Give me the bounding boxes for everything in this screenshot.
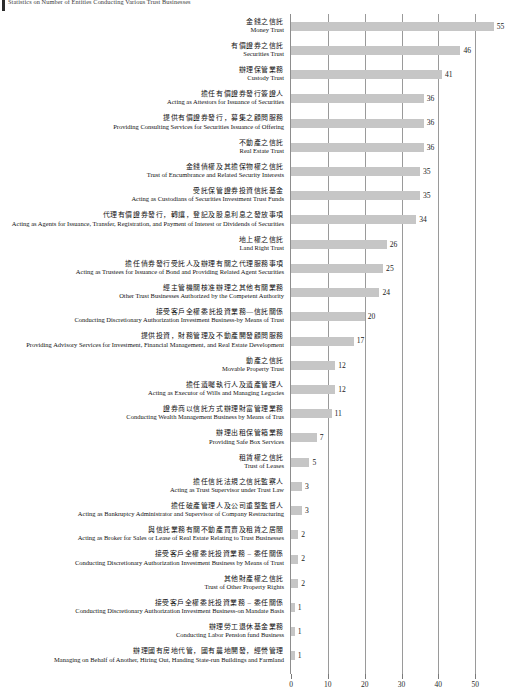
bar-value-label: 2: [301, 554, 305, 563]
x-tick-label-20: 20: [361, 680, 369, 689]
tick-mark-30: [402, 674, 403, 679]
category-label-zh: 有價證券之信託: [0, 42, 284, 50]
bar[interactable]: [291, 458, 309, 467]
bar[interactable]: [291, 240, 387, 249]
category-label: 辦理國有房地代管，國有農地開發，經營管理Managing on Behalf o…: [0, 647, 284, 663]
bar-value-label: 5: [312, 458, 316, 467]
category-label-en: Conducting Discretionary Authorization I…: [0, 607, 284, 615]
bar-value-label: 3: [305, 506, 309, 515]
category-label: 不動產之信託Real Estate Trust: [0, 139, 284, 155]
category-label-zh: 與信託業務有關不動產買賣及租賃之居間: [0, 526, 284, 534]
bar[interactable]: [291, 651, 295, 660]
category-label-en: Acting as Attestors for Issuance of Secu…: [0, 98, 284, 106]
bar[interactable]: [291, 143, 424, 152]
category-label: 提供投資，財務管理及不動產開發顧問服務Providing Advisory Se…: [0, 332, 284, 348]
bar-value-label: 17: [357, 336, 365, 345]
category-label: 擔任遺囑執行人及遺產管理人Acting as Executor of Wills…: [0, 381, 284, 397]
x-tick-label-30: 30: [398, 680, 406, 689]
bar-value-label: 24: [382, 288, 390, 297]
category-label: 接受客戶全權委託投資業務 – 委任關係Conducting Discretion…: [0, 599, 284, 615]
bar[interactable]: [291, 409, 332, 418]
bar[interactable]: [291, 312, 365, 321]
bar[interactable]: [291, 361, 335, 370]
chart-title-strip: Statistics on Number of Entities Conduct…: [0, 0, 510, 12]
bar-value-label: 12: [338, 361, 346, 370]
category-label-en: Money Trust: [0, 26, 284, 34]
bar[interactable]: [291, 167, 420, 176]
category-label-zh: 經主管機關核准辦理之其他有關業務: [0, 284, 284, 292]
category-label: 擔任破產管理人及公司重整監督人Acting as Bankruptcy Admi…: [0, 502, 284, 518]
category-label-en: Providing Advisory Services for Investme…: [0, 341, 284, 349]
bar[interactable]: [291, 506, 302, 515]
category-label: 接受客戶全權委託投資業務 – 委任關係Conducting Discretion…: [0, 550, 284, 566]
bar[interactable]: [291, 555, 298, 564]
gridline-50: [475, 14, 476, 674]
category-label: 地上權之信託Land Right Trust: [0, 236, 284, 252]
category-label: 擔任有價證券發行簽證人Acting as Attestors for Issua…: [0, 90, 284, 106]
bar[interactable]: [291, 22, 494, 31]
bar-value-label: 36: [427, 118, 435, 127]
gridline-40: [438, 14, 439, 674]
bar[interactable]: [291, 433, 317, 442]
x-tick-label-40: 40: [435, 680, 443, 689]
bar-value-label: 25: [386, 264, 394, 273]
bar[interactable]: [291, 627, 295, 636]
category-label-zh: 接受客戶全權委託投資業務—信託關係: [0, 308, 284, 316]
bar-value-label: 55: [497, 22, 505, 31]
category-label-en: Acting as Trust Supervisor under Trust L…: [0, 486, 284, 494]
category-label-zh: 辦理勞工退休基金業務: [0, 623, 284, 631]
bar-value-label: 2: [301, 579, 305, 588]
bar-chart: 01020304050 金錢之信託Money Trust55有價證券之信託Sec…: [0, 12, 510, 697]
bar[interactable]: [291, 288, 379, 297]
category-label-en: Conducting Labor Pension fund Business: [0, 631, 284, 639]
bar[interactable]: [291, 70, 442, 79]
bar-value-label: 35: [423, 167, 431, 176]
bar[interactable]: [291, 482, 302, 491]
bar[interactable]: [291, 94, 424, 103]
category-label: 辦理勞工退休基金業務Conducting Labor Pension fund …: [0, 623, 284, 639]
category-label: 經主管機關核准辦理之其他有關業務Other Trust Businesses A…: [0, 284, 284, 300]
category-label-zh: 證券商以信託方式辦理財富管理業務: [0, 405, 284, 413]
bar[interactable]: [291, 191, 420, 200]
tick-mark-10: [328, 674, 329, 679]
bar[interactable]: [291, 46, 460, 55]
category-label: 證券商以信託方式辦理財富管理業務Conducting Wealth Manage…: [0, 405, 284, 421]
title-accent-marker: [2, 0, 5, 11]
category-label-en: Land Right Trust: [0, 244, 284, 252]
category-label-zh: 地上權之信託: [0, 236, 284, 244]
bar-value-label: 36: [427, 143, 435, 152]
category-label-en: Trust of Encumbrance and Related Securit…: [0, 171, 284, 179]
category-label-zh: 辦理出租保管箱業務: [0, 429, 284, 437]
bar[interactable]: [291, 264, 383, 273]
bar[interactable]: [291, 119, 424, 128]
x-tick-label-0: 0: [289, 680, 293, 689]
bar[interactable]: [291, 603, 295, 612]
category-label: 提供有價證券發行，募集之顧問服務Providing Consulting Ser…: [0, 114, 284, 130]
bar[interactable]: [291, 215, 416, 224]
category-label-zh: 不動產之信託: [0, 139, 284, 147]
category-label-zh: 接受客戶全權委託投資業務 – 委任關係: [0, 599, 284, 607]
category-label-en: Conducting Wealth Management Business by…: [0, 413, 284, 421]
category-label: 有價證券之信託Securities Trust: [0, 42, 284, 58]
bar-value-label: 35: [423, 191, 431, 200]
bar-value-label: 1: [298, 627, 302, 636]
bar-value-label: 20: [368, 312, 376, 321]
bar-value-label: 2: [301, 530, 305, 539]
bar[interactable]: [291, 530, 298, 539]
category-label: 動產之信託Movable Property Trust: [0, 357, 284, 373]
category-label-zh: 擔任破產管理人及公司重整監督人: [0, 502, 284, 510]
bar[interactable]: [291, 385, 335, 394]
category-label-en: Conducting Discretionary Authorization I…: [0, 316, 284, 324]
category-label-zh: 擔任遺囑執行人及遺產管理人: [0, 381, 284, 389]
category-label: 金錢之信託Money Trust: [0, 18, 284, 34]
bar[interactable]: [291, 579, 298, 588]
tick-mark-50: [475, 674, 476, 679]
bar-value-label: 12: [338, 385, 346, 394]
category-label: 辦理保管業務Custody Trust: [0, 66, 284, 82]
bar-value-label: 36: [427, 94, 435, 103]
category-label: 租賃權之信託Trust of Leases: [0, 454, 284, 470]
bar-value-label: 26: [390, 240, 398, 249]
category-label-zh: 受託保管證券投資信託基金: [0, 187, 284, 195]
category-label-zh: 擔任信託法規之信託監察人: [0, 478, 284, 486]
bar[interactable]: [291, 337, 354, 346]
